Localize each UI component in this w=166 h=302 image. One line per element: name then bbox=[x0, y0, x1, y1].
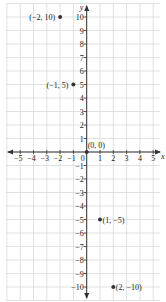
y-tick-label: 8 bbox=[80, 40, 84, 49]
y-tick-label: 6 bbox=[80, 67, 84, 76]
x-axis-left-arrow-icon bbox=[7, 150, 13, 155]
y-tick-label: −2 bbox=[75, 175, 84, 184]
y-tick-label: 3 bbox=[80, 108, 84, 117]
y-tick-label: −5 bbox=[75, 216, 84, 225]
data-point-marker bbox=[111, 285, 115, 289]
y-tick-label: 2 bbox=[80, 121, 84, 130]
y-tick-label: −4 bbox=[75, 202, 84, 211]
x-tick-label: −2 bbox=[54, 154, 63, 163]
y-tick-label: −9 bbox=[75, 270, 84, 279]
y-tick-label: −10 bbox=[71, 283, 84, 292]
x-tick-label: −4 bbox=[27, 154, 36, 163]
y-tick-label: 5 bbox=[80, 81, 84, 90]
y-tick-label: 10 bbox=[76, 13, 84, 22]
x-tick-label: 5 bbox=[151, 154, 155, 163]
x-tick-label: 4 bbox=[138, 154, 142, 163]
y-tick-label: −8 bbox=[75, 256, 84, 265]
data-point-label: (−1, 5) bbox=[47, 81, 69, 90]
x-tick-label: 1 bbox=[98, 154, 102, 163]
y-tick-label: 9 bbox=[80, 27, 84, 36]
data-point-label: (−2, 10) bbox=[29, 13, 55, 22]
x-tick-label: 3 bbox=[125, 154, 129, 163]
x-tick-label: −5 bbox=[14, 154, 23, 163]
data-point-marker bbox=[85, 150, 89, 154]
y-tick-label: −7 bbox=[75, 243, 84, 252]
y-tick-label: −6 bbox=[75, 229, 84, 238]
chart-canvas: xy −5−4−3−2−11234510987654321−1−2−3−4−5−… bbox=[0, 0, 166, 302]
data-point-label: (2, −10) bbox=[116, 283, 142, 292]
data-point-label: (1, −5) bbox=[103, 216, 125, 225]
origin-label: 0 bbox=[81, 154, 85, 163]
data-point-marker bbox=[58, 15, 62, 19]
y-axis-up-arrow-icon bbox=[84, 5, 89, 11]
coordinate-plane-chart: xy −5−4−3−2−11234510987654321−1−2−3−4−5−… bbox=[0, 0, 166, 302]
y-axis-down-arrow-icon bbox=[84, 293, 89, 299]
x-axis-label: x bbox=[160, 152, 165, 161]
data-point-label: (0, 0) bbox=[88, 141, 106, 150]
data-point-marker bbox=[71, 83, 75, 87]
y-tick-label: −3 bbox=[75, 189, 84, 198]
y-tick-label: 4 bbox=[80, 94, 84, 103]
x-tick-label: −3 bbox=[41, 154, 50, 163]
y-axis-label: y bbox=[79, 3, 84, 12]
y-tick-label: 7 bbox=[80, 54, 84, 63]
data-point-marker bbox=[98, 218, 102, 222]
x-tick-label: 2 bbox=[111, 154, 115, 163]
y-tick-label: 1 bbox=[80, 135, 84, 144]
